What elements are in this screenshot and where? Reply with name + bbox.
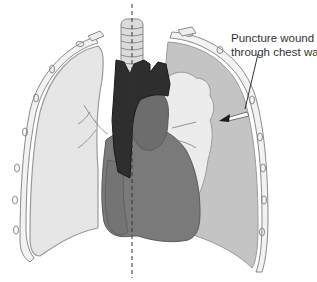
label-line-1: Puncture wound [231, 31, 317, 45]
puncture-wound-label: Puncture wound through chest wall [231, 31, 317, 59]
label-line-2: through chest wall [231, 45, 317, 59]
healthy-lung [30, 46, 108, 256]
